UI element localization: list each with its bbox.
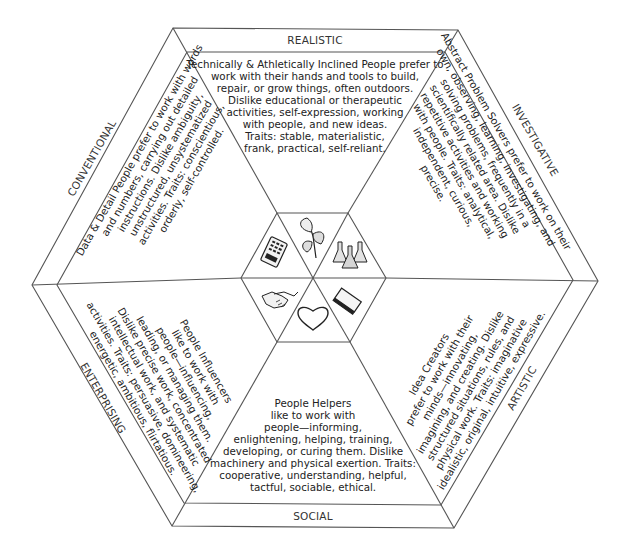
divider-investigative-artistic bbox=[386, 278, 598, 281]
body-line: frank, practical, self-reliant. bbox=[244, 142, 386, 154]
body-line: Technically & Athletically Inclined Peop… bbox=[185, 58, 443, 70]
riasec-hexagon-diagram: REALISTIC SOCIAL INVESTIGATIVE ARTISTIC … bbox=[0, 0, 625, 552]
flasks-icon bbox=[333, 242, 367, 268]
body-line: Dislike educational or therapeutic bbox=[228, 94, 402, 106]
label-social: SOCIAL bbox=[293, 510, 333, 522]
plant-icon bbox=[301, 218, 324, 258]
body-line: tactful, sociable, ethical. bbox=[250, 481, 376, 493]
handshake-icon bbox=[262, 292, 298, 308]
body-line: repair, or grow things, often outdoors. bbox=[217, 82, 413, 94]
body-line: machinery and physical exertion. Traits: bbox=[210, 457, 416, 469]
divider-enterprising-conventional bbox=[32, 278, 241, 285]
calculator-icon bbox=[260, 236, 287, 267]
body-line: enlightening, helping, training, bbox=[234, 433, 393, 445]
body-line: with people, and new ideas. bbox=[243, 118, 387, 130]
body-line: cooperative, understanding, helpful, bbox=[219, 469, 407, 481]
body-line: work with their hands and tools to build… bbox=[211, 70, 419, 82]
body-line: developing, or curing them. Dislike bbox=[223, 445, 403, 457]
body-line: Traits: stable, materialistic, bbox=[244, 130, 384, 142]
body-line: like to work with bbox=[271, 409, 356, 421]
book-icon bbox=[333, 288, 361, 314]
body-realistic: Technically & Athletically Inclined Peop… bbox=[185, 58, 443, 154]
body-line: activities, self-expression, working bbox=[226, 106, 403, 118]
body-line: people—informing, bbox=[264, 421, 362, 433]
body-social: People Helpers like to work with people—… bbox=[210, 397, 416, 493]
label-realistic: REALISTIC bbox=[287, 34, 342, 46]
body-line: People Helpers bbox=[275, 397, 352, 409]
heart-icon bbox=[298, 307, 328, 330]
